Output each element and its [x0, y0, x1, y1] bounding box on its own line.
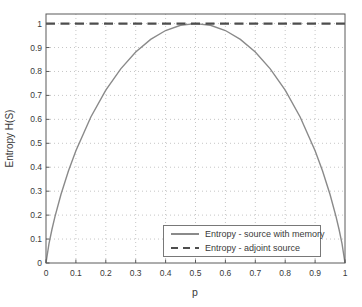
x-tick-label: 0.8 [279, 268, 291, 278]
x-tick-label: 0.2 [100, 268, 112, 278]
y-tick-label: 1 [37, 19, 42, 29]
x-tick-label: 1 [343, 268, 348, 278]
y-tick-label: 0.6 [30, 114, 42, 124]
x-tick-label: 0.5 [190, 268, 202, 278]
legend-item-adjoint-source: Entropy - adjoint source [171, 242, 320, 254]
y-tick-label: 0.9 [30, 43, 42, 53]
x-tick-label: 0.6 [219, 268, 231, 278]
legend-item-source-with-memory: Entropy - source with memory [171, 228, 320, 240]
x-tick-label: 0.9 [309, 268, 321, 278]
x-tick-label: 0.4 [160, 268, 172, 278]
x-tick-label: 0.3 [130, 268, 142, 278]
y-tick-label: 0 [37, 258, 42, 268]
legend-label-source-with-memory: Entropy - source with memory [205, 229, 325, 239]
y-tick-label: 0.3 [30, 186, 42, 196]
y-tick-label: 0.7 [30, 90, 42, 100]
y-tick-label: 0.8 [30, 66, 42, 76]
y-tick-label: 0.5 [30, 138, 42, 148]
legend: Entropy - source with memory Entropy - a… [163, 225, 321, 257]
x-tick-label: 0.1 [70, 268, 82, 278]
y-axis-label: Entropy H(S) [4, 99, 17, 179]
x-tick-label: 0.7 [249, 268, 261, 278]
x-axis-label: p [155, 286, 235, 298]
legend-solid-line-sample [171, 233, 199, 235]
y-tick-label: 0.2 [30, 210, 42, 220]
y-tick-label: 0.1 [30, 234, 42, 244]
legend-label-adjoint-source: Entropy - adjoint source [205, 243, 300, 253]
x-tick-label: 0 [44, 268, 49, 278]
legend-dashed-line-sample [171, 247, 199, 249]
entropy-figure: 00.10.20.30.40.50.60.70.80.9100.10.20.30… [0, 0, 362, 307]
entropy-chart-canvas: 00.10.20.30.40.50.60.70.80.9100.10.20.30… [0, 0, 362, 307]
y-tick-label: 0.4 [30, 162, 42, 172]
